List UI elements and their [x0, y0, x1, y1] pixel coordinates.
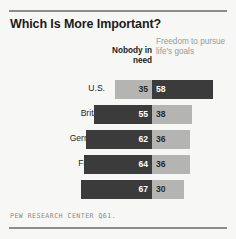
- chart-rows: U.S.3558Britain5538Germany6236France6436…: [0, 78, 236, 203]
- chart-title: Which Is More Important?: [10, 17, 161, 31]
- bar-value-right: 36: [156, 159, 166, 170]
- bar-right-freedom-to-pursue-goals: 30: [152, 180, 184, 199]
- bar-area: 6436: [0, 155, 236, 174]
- bar-value-right: 58: [156, 84, 166, 95]
- bar-left-nobody-in-need: 62: [86, 130, 152, 149]
- bar-right-freedom-to-pursue-goals: 36: [152, 155, 190, 174]
- bar-value-left: 35: [138, 84, 148, 95]
- column-header-freedom-to-pursue-goals: Freedom to pursue life's goals: [156, 37, 232, 56]
- chart-row: Germany6236: [0, 128, 236, 153]
- bottom-divider-rule: [9, 227, 227, 229]
- bar-value-left: 64: [138, 159, 148, 170]
- chart-row: Britain5538: [0, 103, 236, 128]
- top-divider-rule: [9, 10, 227, 12]
- column-header-nobody-in-need: Nobody in need: [96, 46, 152, 65]
- bar-left-nobody-in-need: 64: [84, 155, 152, 174]
- chart-row: U.S.3558: [0, 78, 236, 103]
- bar-right-freedom-to-pursue-goals: 58: [152, 80, 213, 99]
- bar-right-freedom-to-pursue-goals: 36: [152, 130, 190, 149]
- bar-value-left: 55: [138, 109, 148, 120]
- chart-row: France6436: [0, 153, 236, 178]
- bar-area: 3558: [0, 80, 236, 99]
- bar-area: 6236: [0, 130, 236, 149]
- bar-area: 6730: [0, 180, 236, 199]
- bar-value-right: 36: [156, 134, 166, 145]
- chart-card: Which Is More Important? Nobody in need …: [0, 0, 236, 239]
- source-note: PEW RESEARCH CENTER Q61.: [10, 212, 116, 220]
- bar-area: 5538: [0, 105, 236, 124]
- bar-value-left: 67: [138, 184, 148, 195]
- bar-left-nobody-in-need: 67: [81, 180, 152, 199]
- bar-right-freedom-to-pursue-goals: 38: [152, 105, 192, 124]
- bar-value-right: 30: [156, 184, 166, 195]
- chart-row: Spain6730: [0, 178, 236, 203]
- bar-left-nobody-in-need: 55: [94, 105, 152, 124]
- bar-value-left: 62: [138, 134, 148, 145]
- bar-value-right: 38: [156, 109, 166, 120]
- bar-left-nobody-in-need: 35: [115, 80, 152, 99]
